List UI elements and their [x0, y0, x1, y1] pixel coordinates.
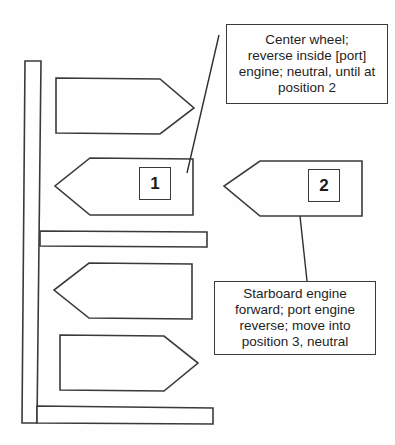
callout-2-line-2: forward; port engine [235, 302, 355, 318]
leader-line-callout-2 [300, 216, 307, 281]
callout-1-line-1: Center wheel; [265, 32, 348, 48]
callout-2-line-4: position 3, neutral [242, 334, 349, 350]
boat-top-right-pointing [56, 78, 194, 134]
position-label-2-text: 2 [319, 176, 328, 196]
main-pier [22, 61, 41, 423]
docking-diagram: 1 2 Center wheel; reverse inside [port] … [0, 0, 395, 445]
callout-2-line-1: Starboard engine [243, 286, 347, 302]
finger-pier-middle [40, 231, 207, 247]
position-label-1: 1 [139, 167, 171, 200]
callout-position-2: Starboard engine forward; port engine re… [214, 281, 376, 355]
boat-lower-left-pointing [54, 263, 192, 319]
callout-1-line-2: reverse inside [port] [248, 48, 367, 64]
position-label-2: 2 [308, 169, 340, 202]
callout-1-line-4: position 2 [278, 80, 336, 96]
boat-bottom-right-pointing [60, 335, 198, 391]
finger-pier-bottom [37, 406, 213, 424]
position-label-1-text: 1 [150, 174, 159, 194]
boat-2 [224, 161, 362, 216]
callout-2-line-3: reverse; move into [239, 318, 350, 334]
leader-line-callout-1 [187, 35, 219, 173]
callout-1-line-3: engine; neutral, until at [239, 64, 376, 80]
boat-1 [55, 158, 193, 215]
callout-position-1: Center wheel; reverse inside [port] engi… [226, 24, 388, 104]
